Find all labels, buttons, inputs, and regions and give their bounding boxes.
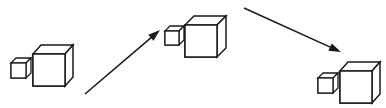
large-cube-left	[33, 45, 73, 86]
large-cube-middle	[185, 16, 226, 57]
large-cube-right-front-outline	[340, 71, 372, 103]
large-cube-left-front-outline	[33, 54, 65, 86]
diagram-canvas	[0, 0, 386, 108]
small-cube-middle-front-outline	[165, 31, 179, 45]
small-cube-middle	[165, 26, 184, 45]
large-cube-middle-front-outline	[185, 25, 217, 57]
large-cube-right	[340, 62, 380, 103]
small-cube-left-front-outline	[11, 63, 26, 78]
small-cube-left	[11, 58, 31, 78]
small-cube-right	[318, 73, 338, 93]
small-cube-right-front-outline	[318, 78, 333, 93]
cube-arrow-diagram	[0, 0, 386, 108]
